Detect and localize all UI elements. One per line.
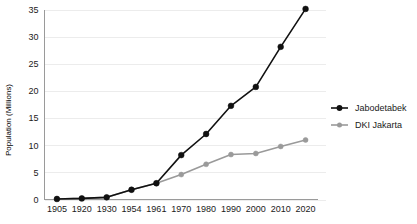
legend-label: Jabodetabek	[355, 103, 407, 113]
x-tick-label: 1954	[122, 204, 142, 214]
y-tick-label: 25	[28, 59, 38, 69]
data-point	[228, 152, 233, 157]
x-tick-label: 1961	[146, 204, 166, 214]
data-point	[303, 6, 309, 12]
data-point	[178, 152, 184, 158]
data-point	[54, 196, 60, 202]
x-tick-label: 1970	[171, 204, 191, 214]
x-tick-label: 1905	[47, 204, 67, 214]
legend-marker	[337, 105, 343, 111]
y-tick-label: 5	[33, 168, 38, 178]
x-tick-label: 2020	[296, 204, 316, 214]
data-point	[153, 180, 159, 186]
data-point	[253, 84, 259, 90]
data-point	[228, 103, 234, 109]
x-tick-label: 2010	[271, 204, 291, 214]
data-point	[79, 196, 85, 202]
y-axis-title: Population (Millions)	[4, 84, 13, 156]
data-point	[203, 131, 209, 137]
x-tick-label: 2000	[246, 204, 266, 214]
data-point	[278, 44, 284, 50]
data-point	[278, 144, 283, 149]
y-tick-label: 15	[28, 113, 38, 123]
x-tick-labels-group: 1905192019301954196119701980199020002010…	[47, 204, 316, 214]
chart-canvas: 05101520253035 1905192019301954196119701…	[0, 0, 417, 224]
line-chart: 05101520253035 1905192019301954196119701…	[0, 0, 417, 224]
y-tick-label: 35	[28, 5, 38, 15]
legend-label: DKI Jakarta	[355, 120, 402, 130]
x-tick-label: 1990	[221, 204, 241, 214]
data-point	[104, 194, 110, 200]
y-tick-label: 10	[28, 141, 38, 151]
y-tick-label: 30	[28, 32, 38, 42]
data-point	[129, 187, 135, 193]
y-tick-label: 20	[28, 86, 38, 96]
x-tick-label: 1980	[196, 204, 216, 214]
x-tick-label: 1930	[97, 204, 117, 214]
data-point	[253, 151, 258, 156]
data-point	[204, 162, 209, 167]
legend-marker	[337, 123, 342, 128]
y-tick-label: 0	[33, 195, 38, 205]
data-point	[303, 137, 308, 142]
data-point	[179, 172, 184, 177]
x-tick-label: 1920	[72, 204, 92, 214]
